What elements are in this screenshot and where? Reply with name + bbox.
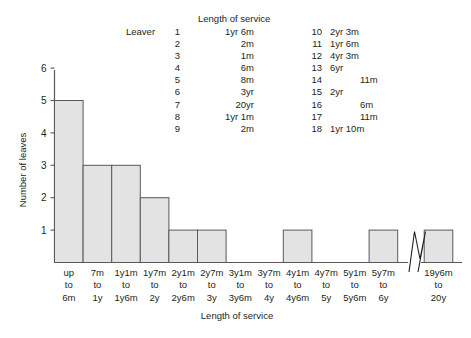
axis-break-zigzag-icon (409, 232, 426, 273)
x-tick-label: 1y7m (143, 267, 166, 278)
x-tick-label: to (151, 279, 159, 290)
x-tick-label: to (208, 279, 216, 290)
bar (369, 230, 398, 262)
bar (169, 230, 198, 262)
x-tick-label: to (379, 279, 387, 290)
x-tick-label: 3y1m (229, 267, 252, 278)
y-tick-label: 2 (41, 192, 47, 203)
x-tick-label: 2y6m (172, 292, 195, 303)
x-tick-label: to (265, 279, 273, 290)
x-tick-label: 3y7m (257, 267, 280, 278)
x-tick-label: to (122, 279, 130, 290)
x-axis-title: Length of service (201, 310, 273, 321)
y-tick-label: 5 (41, 95, 47, 106)
y-tick-label: 3 (41, 160, 47, 171)
x-tick-label: 2y1m (172, 267, 195, 278)
x-tick-label: 6y (378, 292, 388, 303)
x-tick-label: to (322, 279, 330, 290)
bar (140, 198, 169, 263)
x-tick-label: to (179, 279, 187, 290)
x-tick-label: to (294, 279, 302, 290)
bar (83, 165, 112, 262)
y-tick-label: 6 (41, 63, 47, 74)
chart-canvas: 123456Number of leavesupto6m7mto1y1y1mto… (0, 0, 471, 338)
x-tick-label: up (64, 267, 75, 278)
x-tick-label: 3y (207, 292, 217, 303)
y-axis-title: Number of leaves (17, 133, 28, 208)
x-tick-label: 5y7m (372, 267, 395, 278)
x-tick-label: 1y (92, 292, 102, 303)
x-tick-label: 3y6m (229, 292, 252, 303)
x-tick-label: 6m (62, 292, 75, 303)
x-tick-label: to (236, 279, 244, 290)
x-tick-label: 19y6m (424, 267, 453, 278)
x-tick-label: 2y7m (200, 267, 223, 278)
x-tick-label: 4y6m (286, 292, 309, 303)
x-tick-label: 7m (91, 267, 104, 278)
x-tick-label: 4y1m (286, 267, 309, 278)
x-tick-label: to (93, 279, 101, 290)
bar (283, 230, 312, 262)
y-tick-label: 4 (41, 128, 47, 139)
x-tick-label: 20y (431, 292, 447, 303)
x-tick-label: 2y (150, 292, 160, 303)
x-tick-label: 4y7m (315, 267, 338, 278)
x-tick-label: to (435, 279, 443, 290)
x-tick-label: to (65, 279, 73, 290)
y-tick-label: 1 (41, 225, 47, 236)
bar (198, 230, 227, 262)
x-tick-label: 5y1m (343, 267, 366, 278)
bar (112, 165, 141, 262)
x-tick-label: 5y6m (343, 292, 366, 303)
x-tick-label: 1y6m (114, 292, 137, 303)
x-tick-label: 5y (321, 292, 331, 303)
x-tick-label: to (351, 279, 359, 290)
bar (55, 101, 84, 263)
x-tick-label: 1y1m (114, 267, 137, 278)
histogram-chart: 123456Number of leavesupto6m7mto1y1y1mto… (0, 0, 471, 338)
x-tick-label: 4y (264, 292, 274, 303)
bar (424, 230, 453, 262)
